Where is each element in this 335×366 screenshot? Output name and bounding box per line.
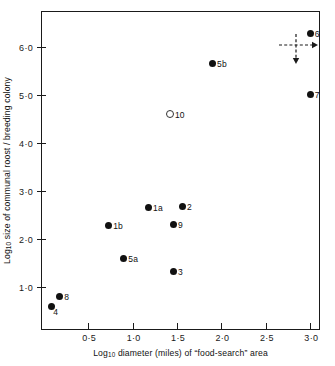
y-tick-3·0: 3·0 (37, 191, 46, 192)
data-point-1a: 1a (145, 204, 152, 211)
x-tick-2·0: 2·0 (221, 323, 222, 330)
scatter-plot-figure: Log10 size of communal roost / breeding … (0, 0, 335, 366)
y-tick-label: 2·0 (19, 235, 33, 245)
x-axis-title: Log10 diameter (miles) of “food-search” … (41, 348, 320, 358)
data-point-label-9: 9 (178, 220, 183, 230)
data-point-4: 4 (48, 303, 55, 310)
y-tick-label: 1·0 (19, 283, 33, 293)
y-tick-5·0: 5·0 (37, 95, 46, 96)
data-point-8: 8 (56, 293, 63, 300)
uncertainty-right-arrowhead (312, 42, 318, 48)
x-tick-1·0: 1·0 (133, 323, 134, 330)
plot-area: 1·02·03·04·05·06·0 0·51·01·52·02·53·0 48… (41, 11, 320, 330)
x-tick-label: 0·5 (82, 333, 96, 343)
x-tick-1·5: 1·5 (177, 323, 178, 330)
data-point-9: 9 (170, 221, 177, 228)
data-point-label-1b: 1b (113, 221, 123, 231)
y-tick-label: 4·0 (19, 139, 33, 149)
data-point-1b: 1b (105, 222, 112, 229)
x-tick-label: 1·0 (127, 333, 141, 343)
data-point-label-3: 3 (178, 267, 183, 277)
data-point-2: 2 (179, 203, 186, 210)
y-tick-1·0: 1·0 (37, 287, 46, 288)
data-point-label-2: 2 (187, 202, 192, 212)
data-point-label-4: 4 (53, 307, 58, 317)
x-tick-label: 3·0 (304, 333, 318, 343)
data-point-3: 3 (170, 268, 177, 275)
x-tick-0·5: 0·5 (88, 323, 89, 330)
x-tick-label: 2·0 (216, 333, 230, 343)
data-point-10: 10 (166, 110, 174, 118)
data-point-7: 7 (307, 91, 314, 98)
x-tick-2·5: 2·5 (266, 323, 267, 330)
x-tick-label: 2·5 (260, 333, 274, 343)
x-tick-label: 1·5 (171, 333, 185, 343)
y-tick-6·0: 6·0 (37, 47, 46, 48)
data-point-label-5a: 5a (128, 254, 138, 264)
y-tick-label: 5·0 (19, 91, 33, 101)
x-tick-3·0: 3·0 (310, 323, 311, 330)
y-tick-label: 6·0 (19, 43, 33, 53)
y-tick-label: 3·0 (19, 187, 33, 197)
data-point-label-8: 8 (64, 292, 69, 302)
y-tick-2·0: 2·0 (37, 239, 46, 240)
data-point-5a: 5a (120, 255, 127, 262)
data-point-label-1a: 1a (153, 203, 163, 213)
data-point-6: 6 (307, 30, 314, 37)
data-point-label-10: 10 (175, 110, 185, 120)
data-point-label-7: 7 (315, 90, 320, 100)
y-axis-title: Log10 size of communal roost / breeding … (2, 11, 16, 330)
data-point-5b: 5b (209, 60, 216, 67)
data-point-label-6: 6 (315, 29, 320, 39)
uncertainty-down-arrowhead (293, 58, 299, 64)
data-point-label-5b: 5b (217, 59, 227, 69)
y-tick-4·0: 4·0 (37, 143, 46, 144)
